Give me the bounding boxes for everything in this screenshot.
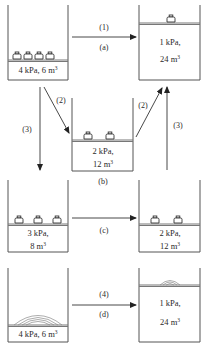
arrow-2-up xyxy=(136,88,162,137)
weight-icon xyxy=(84,132,92,139)
cylinder-b-intermediate: 2 kPa, 12 m3 (b) xyxy=(72,98,133,186)
arrow-2-down xyxy=(44,87,69,133)
volume-label: 12 m3 xyxy=(160,241,180,251)
process-label: (d) xyxy=(99,310,109,319)
volume-label: 24 m3 xyxy=(160,54,180,64)
process-arrow-a: (1) (a) xyxy=(72,23,136,52)
cylinder-a-final: 1 kPa, 24 m3 xyxy=(139,5,200,80)
state-label: 4 kPa, 6 m3 xyxy=(18,329,57,339)
sand-pile-icon xyxy=(160,281,180,286)
cylinder-a-initial: 4 kPa, 6 m3 xyxy=(8,5,68,80)
weight-icon xyxy=(46,52,54,59)
process-arrow-c: (c) xyxy=(72,218,136,235)
weight-icon xyxy=(13,52,21,59)
weight-icon xyxy=(151,216,159,223)
weight-icon xyxy=(34,216,42,223)
weight-icon xyxy=(35,52,43,59)
volume-label: 8 m3 xyxy=(30,241,46,251)
pressure-label: 2 kPa, xyxy=(159,228,180,238)
process-label: (3) xyxy=(22,125,32,134)
pressure-label: 2 kPa, xyxy=(92,146,113,156)
state-label: 4 kPa, 6 m3 xyxy=(18,65,57,75)
volume-label: 12 m3 xyxy=(93,159,113,169)
weight-icon xyxy=(174,216,182,223)
weight-icon xyxy=(24,52,32,59)
process-label: (3) xyxy=(173,121,183,130)
cylinder-c-final: 2 kPa, 12 m3 xyxy=(139,180,200,252)
process-label: (a) xyxy=(100,43,109,52)
process-label: (2) xyxy=(56,96,66,105)
weight-icon xyxy=(53,216,61,223)
process-arrow-d: (4) (d) xyxy=(72,290,136,319)
cylinder-c-initial: 3 kPa, 8 m3 xyxy=(8,180,68,252)
pressure-label: 3 kPa, xyxy=(27,228,48,238)
process-arrows-2-3: (3) (2) (2) (3) xyxy=(22,87,183,170)
weight-icon xyxy=(167,15,175,22)
pressure-label: 1 kPa, xyxy=(159,298,180,308)
pressure-label: 1 kPa, xyxy=(159,37,180,47)
cylinder-d-final: 1 kPa, 24 m3 xyxy=(139,268,200,342)
process-diagram: 4 kPa, 6 m3 (1) (a) 1 kPa, 24 m3 (3) (2)… xyxy=(0,0,209,351)
weight-icon xyxy=(106,132,114,139)
cylinder-d-initial: 4 kPa, 6 m3 xyxy=(8,268,68,342)
sand-pile-icon xyxy=(14,316,62,326)
volume-label: 24 m3 xyxy=(160,317,180,327)
process-label: (1) xyxy=(99,23,109,32)
process-label: (2) xyxy=(138,101,148,110)
weight-icon xyxy=(15,216,23,223)
process-label: (4) xyxy=(99,290,109,299)
process-label: (c) xyxy=(100,226,109,235)
process-label: (b) xyxy=(98,177,108,186)
